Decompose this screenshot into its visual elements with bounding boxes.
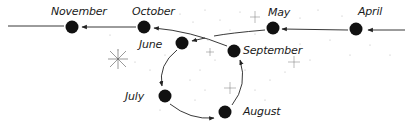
retrograde-motion-diagram: April May June July August September Oct… (0, 0, 410, 127)
label-april: April (358, 6, 382, 17)
star-field (109, 9, 390, 110)
sparkle-star-large (108, 49, 128, 69)
label-june: June (139, 39, 162, 50)
planet-dot-june (176, 37, 189, 50)
label-september: September (243, 45, 302, 56)
diagram-drawing (0, 0, 410, 127)
planet-dot-april (350, 23, 363, 36)
label-november: November (51, 6, 107, 17)
motion-path (8, 26, 405, 118)
label-may: May (268, 7, 290, 18)
planet-dot-august (219, 106, 232, 119)
label-august: August (243, 106, 280, 117)
label-october: October (132, 6, 175, 17)
planet-dot-july (159, 90, 172, 103)
label-july: July (125, 91, 144, 102)
planet-dot-november (66, 21, 79, 34)
planet-dot-september (228, 45, 241, 58)
planet-dot-october (138, 21, 151, 34)
planet-dot-may (267, 22, 280, 35)
